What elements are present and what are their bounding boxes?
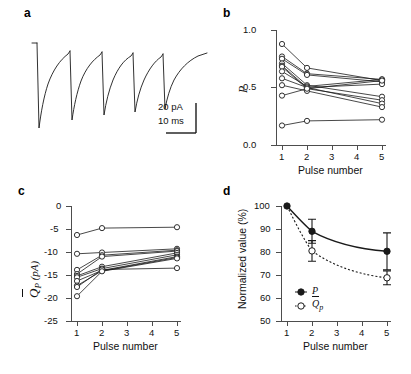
scale-bar-label-current: 20 pA (158, 101, 183, 113)
figure-container: a 20 pA 10 (0, 0, 411, 374)
panel-b-ytick-label-1: 1.0 (243, 24, 256, 35)
panel-b-xtick-label-4: 4 (354, 151, 359, 162)
trace-pulse-1 (37, 43, 70, 128)
panel-d-x-axis-label: Pulse number (303, 340, 368, 352)
trace-pulse-3 (102, 52, 133, 115)
panel-b-series-lines (282, 44, 382, 126)
scale-bar-label-time: 10 ms (158, 115, 184, 127)
panel-c-xtick-label-1: 1 (74, 327, 79, 338)
panel-d-xtick-label-2: 2 (309, 327, 314, 338)
panel-b-xtick-label-2: 2 (304, 151, 309, 162)
panel-c-x-axis-label: Pulse number (93, 340, 158, 352)
panel-d-errorbars-Qp (308, 241, 391, 285)
panel-b-xtick-label-3: 3 (329, 151, 334, 162)
panel-c-y-axis-label: QP (pA) (26, 261, 43, 298)
panel-d-ytick-label-50: 50 (260, 315, 271, 326)
panel-c-ylabel-units (28, 280, 40, 283)
panel-b-x-axis-label: Pulse number (298, 164, 363, 176)
figure-caption-fragment (8, 366, 10, 374)
overbar-icon (22, 289, 23, 297)
panel-d-xtick-label-3: 3 (334, 327, 339, 338)
legend-overbar-icon (312, 296, 319, 297)
panel-d-errorbars-P (308, 219, 391, 269)
panel-a-trace-plot (0, 0, 210, 180)
panel-c-xtick-label-2: 2 (99, 327, 104, 338)
panel-c-ylabel-symbol: Q (26, 289, 41, 298)
panel-d-legend-markers (295, 289, 307, 309)
panel-c-ytick-label-m15: -15 (44, 269, 58, 280)
panel-d-markers-Qp (309, 248, 390, 281)
panel-b: b (210, 0, 411, 180)
legend-marker-Qp (298, 303, 304, 309)
panel-d-fit-curve-P (287, 206, 387, 251)
panel-d-legend-label-P: P (312, 285, 318, 296)
panel-d-markers-P (284, 203, 390, 255)
panel-b-xtick-label-5: 5 (379, 151, 384, 162)
panel-c-ytick-label-m20: -20 (44, 292, 58, 303)
panel-d-legend-label-Qp: Qp (312, 298, 323, 312)
panel-d-ytick-label-90: 90 (260, 223, 271, 234)
panel-b-y-axis-label: P (236, 86, 251, 93)
panel-a: a 20 pA 10 (0, 0, 210, 180)
panel-d: d (210, 180, 411, 374)
legend-marker-P (298, 289, 304, 295)
panel-d-ytick-label-80: 80 (260, 246, 271, 257)
panel-d-ytick-label-70: 70 (260, 269, 271, 280)
panel-c: c (0, 180, 210, 374)
panel-c-ytick-label-m25: -25 (44, 315, 58, 326)
panel-c-ytick-label-m5: -5 (50, 223, 58, 234)
panel-d-ytick-label-100: 100 (254, 200, 270, 211)
panel-d-xtick-label-1: 1 (284, 327, 289, 338)
panel-d-y-axis-label: Normalized value (%) (236, 209, 248, 309)
panel-c-series-lines (77, 227, 177, 296)
panel-c-ytick-label-0: 0 (56, 200, 61, 211)
panel-c-xtick-label-4: 4 (149, 327, 154, 338)
panel-b-ytick-label-0: 0.0 (243, 139, 256, 150)
panel-d-xtick-label-5: 5 (384, 327, 389, 338)
panel-c-xtick-label-3: 3 (124, 327, 129, 338)
panel-d-xtick-label-4: 4 (359, 327, 364, 338)
panel-c-xtick-label-5: 5 (174, 327, 179, 338)
panel-b-xtick-label-1: 1 (279, 151, 284, 162)
panel-d-ytick-label-60: 60 (260, 292, 271, 303)
panel-c-ytick-label-m10: -10 (44, 246, 58, 257)
trace-pulse-2 (70, 51, 102, 120)
